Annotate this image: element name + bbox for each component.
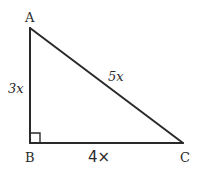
side-label-bc: 4×: [88, 148, 110, 166]
triangle-diagram: A B C 3x 5x 4×: [0, 0, 200, 169]
side-label-ac: 5x: [108, 69, 124, 84]
side-ac-hypotenuse: [30, 28, 183, 143]
right-angle-marker-icon: [30, 133, 40, 143]
vertex-label-c: C: [180, 150, 190, 165]
vertex-label-b: B: [25, 150, 35, 165]
vertex-label-a: A: [24, 10, 35, 25]
side-label-ab: 3x: [8, 81, 24, 96]
